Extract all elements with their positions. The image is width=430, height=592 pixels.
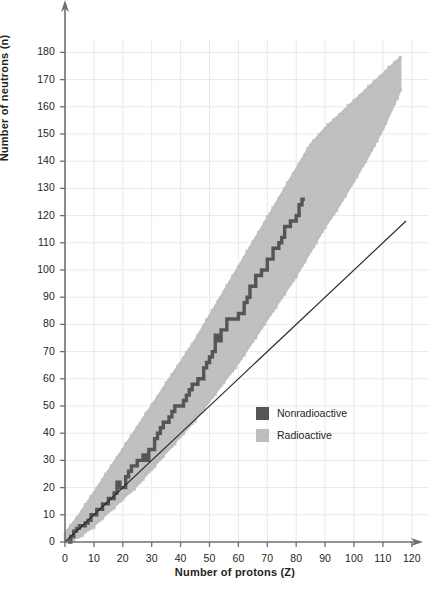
y-axis-title: Number of neutrons (n)	[0, 0, 10, 198]
y-tick-label: 60	[19, 372, 55, 384]
x-axis-title: Number of protons (Z)	[65, 566, 405, 578]
legend-label-nonradioactive: Nonradioactive	[277, 407, 347, 419]
legend-swatch-radioactive	[256, 429, 269, 442]
legend-swatch-nonradioactive	[256, 407, 269, 420]
y-tick-label: 130	[19, 181, 55, 193]
y-tick-label: 50	[19, 399, 55, 411]
y-tick-label: 80	[19, 317, 55, 329]
y-tick-label: 20	[19, 481, 55, 493]
axis-layer	[65, 11, 425, 542]
plot-area	[65, 11, 425, 542]
x-tick-label: 120	[394, 552, 430, 564]
y-tick-label: 150	[19, 127, 55, 139]
chart-legend: Nonradioactive Radioactive	[256, 404, 347, 448]
y-tick-label: 180	[19, 45, 55, 57]
y-tick-label: 70	[19, 345, 55, 357]
y-tick-label: 120	[19, 209, 55, 221]
y-tick-label: 110	[19, 236, 55, 248]
y-tick-label: 10	[19, 508, 55, 520]
legend-item-radioactive: Radioactive	[256, 426, 347, 444]
y-tick-label: 90	[19, 290, 55, 302]
y-tick-label: 100	[19, 263, 55, 275]
legend-label-radioactive: Radioactive	[277, 429, 332, 441]
y-tick-label: 160	[19, 100, 55, 112]
y-tick-label: 0	[19, 535, 55, 547]
y-tick-label: 40	[19, 426, 55, 438]
y-tick-label: 170	[19, 73, 55, 85]
y-tick-label: 140	[19, 154, 55, 166]
legend-item-nonradioactive: Nonradioactive	[256, 404, 347, 422]
y-tick-label: 30	[19, 453, 55, 465]
band-of-stability-chart: 0102030405060708090100110120130140150160…	[0, 0, 430, 592]
